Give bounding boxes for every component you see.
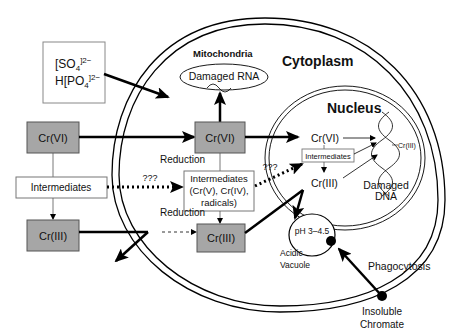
nuc-intermediates-label: Intermediates xyxy=(305,152,351,161)
nucleus-label: Nucleus xyxy=(327,100,382,116)
cyto-cr3-label: Cr(III) xyxy=(207,232,235,244)
cyto-intermediates-radicals: radicals) xyxy=(201,197,237,208)
dna-cr3-label: Cr(III) xyxy=(398,142,416,150)
insoluble-chromate-particle-icon xyxy=(377,291,387,301)
ext-cr3-out-arrow xyxy=(116,232,148,261)
ext-cr3-label: Cr(III) xyxy=(39,230,67,242)
cytoplasm-label: Cytoplasm xyxy=(282,53,354,69)
unknown-label-2: ??? xyxy=(262,162,277,172)
reduction-label-2: Reduction xyxy=(160,207,205,218)
nuc-cr6-label: Cr(VI) xyxy=(311,132,339,144)
acidic-vacuole-label-2: Vacuole xyxy=(280,260,310,270)
damaged-dna-label-2: DNA xyxy=(375,190,397,202)
insoluble-chromate-label: Insoluble xyxy=(362,306,402,317)
nuc-intermediates-dna-arrow xyxy=(354,143,376,154)
phagocytosis-label: Phagocytosis xyxy=(368,260,430,272)
nuc-cr3-label: Cr(III) xyxy=(311,177,338,189)
reduction-label-1: Reduction xyxy=(160,154,205,165)
anion-arrow xyxy=(104,74,168,97)
ext-intermediates-label: Intermediates xyxy=(31,182,92,193)
unknown-label-1: ??? xyxy=(142,173,157,183)
ph-label: pH 3–4.5 xyxy=(295,226,330,236)
cyto-intermediates-label: Intermediates xyxy=(190,173,248,184)
damaged-rna-label: Damaged RNA xyxy=(189,70,260,82)
acidic-vacuole-label: Acidic xyxy=(280,248,303,258)
phagocytosis-arrow xyxy=(339,249,381,295)
chromium-cell-diagram: [SO4]2− H[PO4]2− Cr(VI) Intermediates ??… xyxy=(0,0,453,335)
mitochondria-label: Mitochondria xyxy=(193,48,253,59)
cyto-intermediates-species: (Cr(V), Cr(IV), xyxy=(189,185,248,196)
ext-cr6-label: Cr(VI) xyxy=(38,132,67,144)
insoluble-chromate-label-2: Chromate xyxy=(360,319,404,330)
cyto-cr6-label: Cr(VI) xyxy=(205,132,234,144)
internalized-particle-icon xyxy=(326,236,336,246)
